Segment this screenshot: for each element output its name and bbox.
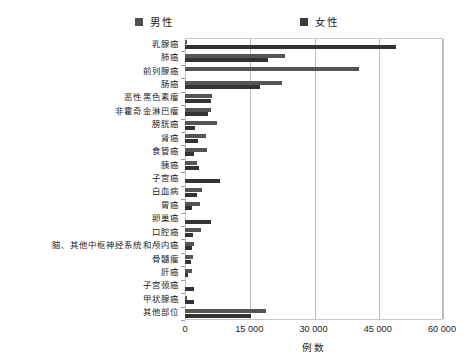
bar-female bbox=[185, 139, 198, 143]
bar-group bbox=[185, 172, 443, 185]
bar-group bbox=[185, 145, 443, 158]
y-axis-label: 胃癌 bbox=[161, 201, 179, 210]
y-axis-tick bbox=[181, 320, 185, 321]
bar-group bbox=[185, 253, 443, 266]
legend-label-male: 男性 bbox=[150, 14, 173, 29]
legend-item-female: 女性 bbox=[300, 14, 338, 29]
bar-group bbox=[185, 226, 443, 239]
bar-group bbox=[185, 105, 443, 118]
y-axis-labels: 乳腺癌肺癌前列腺癌肠癌恶性黑色素瘤非霍奇金淋巴瘤膀胱癌肾癌食管癌胰癌子宫癌白血病… bbox=[0, 38, 183, 320]
bar-male bbox=[185, 228, 201, 232]
legend-swatch-male-icon bbox=[135, 18, 143, 26]
y-axis-label: 白血病 bbox=[152, 187, 179, 196]
bar-male bbox=[185, 269, 192, 273]
y-axis-label: 乳腺癌 bbox=[152, 40, 179, 49]
y-axis-label: 恶性黑色素瘤 bbox=[124, 93, 179, 102]
bar-group bbox=[185, 159, 443, 172]
y-axis-label: 骨髓瘤 bbox=[152, 255, 179, 264]
bar-chart: 男性 女性 乳腺癌肺癌前列腺癌肠癌恶性黑色素瘤非霍奇金淋巴瘤膀胱癌肾癌食管癌胰癌… bbox=[0, 0, 473, 363]
x-axis-tick-label: 30 000 bbox=[299, 324, 327, 334]
bar-male bbox=[185, 81, 282, 85]
bar-group bbox=[185, 78, 443, 91]
bar-group bbox=[185, 51, 443, 64]
y-axis-label: 脑、其他中枢神经系统和颅内癌 bbox=[52, 241, 179, 250]
bar-female bbox=[185, 112, 208, 116]
bar-female bbox=[185, 99, 211, 103]
y-axis-label: 卵巢癌 bbox=[152, 214, 179, 223]
bar-female bbox=[185, 152, 194, 156]
gridline bbox=[443, 39, 444, 319]
y-axis-label: 胰癌 bbox=[161, 161, 179, 170]
bar-group bbox=[185, 280, 443, 293]
bar-female bbox=[185, 193, 197, 197]
bar-series-container bbox=[185, 38, 443, 320]
bar-group bbox=[185, 92, 443, 105]
y-axis-label: 子宫癌 bbox=[152, 174, 179, 183]
bar-male bbox=[185, 309, 266, 313]
bar-group bbox=[185, 119, 443, 132]
bar-male bbox=[185, 67, 359, 71]
bar-female bbox=[185, 273, 188, 277]
bar-female bbox=[185, 260, 191, 264]
bar-female bbox=[185, 126, 195, 130]
y-axis-label: 前列腺癌 bbox=[143, 67, 179, 76]
y-axis-label: 肺癌 bbox=[161, 53, 179, 62]
bar-female bbox=[185, 58, 268, 62]
bar-male bbox=[185, 255, 193, 259]
bar-group bbox=[185, 266, 443, 279]
y-axis-label: 子宫颈癌 bbox=[143, 281, 179, 290]
x-axis-tick-label: 0 bbox=[182, 324, 187, 334]
bar-group bbox=[185, 307, 443, 320]
legend-item-male: 男性 bbox=[135, 14, 173, 29]
y-axis-label: 膀胱癌 bbox=[152, 120, 179, 129]
x-axis-tick-label: 15 000 bbox=[235, 324, 263, 334]
bar-female bbox=[185, 246, 192, 250]
x-axis-tick-labels: 015 00030 00045 00060 000 bbox=[0, 324, 473, 338]
legend-label-female: 女性 bbox=[315, 14, 338, 29]
y-axis-label: 肝癌 bbox=[161, 268, 179, 277]
bar-male bbox=[185, 188, 202, 192]
y-axis-label: 非霍奇金淋巴瘤 bbox=[115, 107, 179, 116]
x-axis-tick-label: 45 000 bbox=[364, 324, 392, 334]
bar-female bbox=[185, 85, 260, 89]
legend-swatch-female-icon bbox=[300, 18, 308, 26]
bar-male bbox=[185, 242, 194, 246]
bar-female bbox=[185, 166, 199, 170]
bar-male bbox=[185, 134, 206, 138]
y-axis-label: 其他部位 bbox=[143, 308, 179, 317]
bar-female bbox=[185, 287, 194, 291]
bar-male bbox=[185, 40, 187, 44]
bar-female bbox=[185, 233, 193, 237]
chart-legend: 男性 女性 bbox=[0, 14, 473, 30]
bar-male bbox=[185, 108, 211, 112]
bar-group bbox=[185, 186, 443, 199]
bar-male bbox=[185, 121, 217, 125]
y-axis-label: 口腔癌 bbox=[152, 228, 179, 237]
y-axis-label: 食管癌 bbox=[152, 147, 179, 156]
bar-group bbox=[185, 199, 443, 212]
x-axis-title: 例数 bbox=[185, 340, 443, 354]
bar-female bbox=[185, 300, 194, 304]
bar-male bbox=[185, 94, 212, 98]
y-axis-label: 甲状腺癌 bbox=[143, 295, 179, 304]
bar-group bbox=[185, 132, 443, 145]
bar-male bbox=[185, 296, 187, 300]
bar-male bbox=[185, 54, 285, 58]
bar-male bbox=[185, 161, 197, 165]
bar-female bbox=[185, 206, 192, 210]
bar-male bbox=[185, 202, 200, 206]
y-axis-label: 肾癌 bbox=[161, 134, 179, 143]
bar-group bbox=[185, 293, 443, 306]
bar-group bbox=[185, 239, 443, 252]
bar-female bbox=[185, 179, 220, 183]
y-axis-label: 肠癌 bbox=[161, 80, 179, 89]
bar-male bbox=[185, 148, 207, 152]
bar-female bbox=[185, 314, 251, 318]
x-axis-tick-label: 60 000 bbox=[428, 324, 456, 334]
bar-group bbox=[185, 38, 443, 51]
bar-female bbox=[185, 220, 211, 224]
bar-group bbox=[185, 65, 443, 78]
bar-group bbox=[185, 213, 443, 226]
bar-female bbox=[185, 45, 396, 49]
